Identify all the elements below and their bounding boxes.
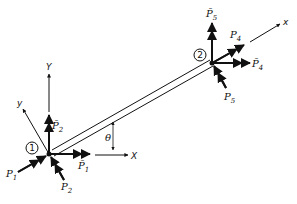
node-1: 1 [26,142,52,157]
global-y-axis: Y [46,62,53,112]
svg-text:P̄4: P̄4 [251,58,263,72]
global-x-axis: X [95,151,138,161]
svg-text:P5: P5 [223,91,236,105]
force-P1-local: P1 [5,156,46,182]
svg-text:P1: P1 [5,168,17,182]
force-P2-local: P2 [51,157,73,195]
force-P5-local: P5 [214,66,236,105]
force-P1-bar: P̄1 [51,154,90,174]
svg-text:P̄1: P̄1 [77,160,89,174]
svg-text:P̄2: P̄2 [51,120,64,134]
force-P4-local: P4 [214,29,244,62]
local-x-axis: x [250,17,289,42]
force-P4-bar: P̄4 [214,58,263,72]
node-2-label: 2 [197,50,203,60]
node-1-label: 1 [29,143,35,153]
svg-text:P2: P2 [60,181,73,195]
local-y-label: y [16,98,23,108]
local-x-label: x [282,17,289,27]
truss-member [52,60,213,156]
force-P2-bar: P̄2 [49,115,64,152]
svg-text:P̄5: P̄5 [205,8,218,22]
global-x-label: X [130,151,138,161]
global-y-label: Y [46,62,53,72]
svg-text:P4: P4 [229,29,241,43]
theta-label: θ [105,132,111,143]
force-P5-bar: P̄5 [205,8,218,61]
truss-element-diagram: Y X y x θ 1 P̄1 P̄2 P1 [0,0,297,204]
